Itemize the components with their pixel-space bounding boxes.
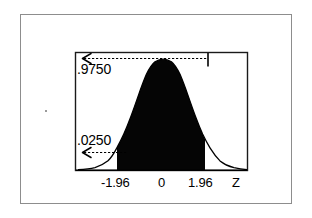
normal-distribution-plot bbox=[0, 0, 312, 218]
figure-root: .9750 .0250 -1.96 0 1.96 Z bbox=[0, 0, 312, 218]
x-tick-label-positive-critical: 1.96 bbox=[188, 176, 213, 189]
x-tick-label-negative-critical: -1.96 bbox=[101, 176, 130, 189]
lower-probability-label: .0250 bbox=[77, 133, 111, 147]
x-axis-variable-label: Z bbox=[232, 176, 240, 189]
upper-probability-label: .9750 bbox=[77, 62, 111, 76]
x-tick-label-center: 0 bbox=[158, 176, 165, 189]
